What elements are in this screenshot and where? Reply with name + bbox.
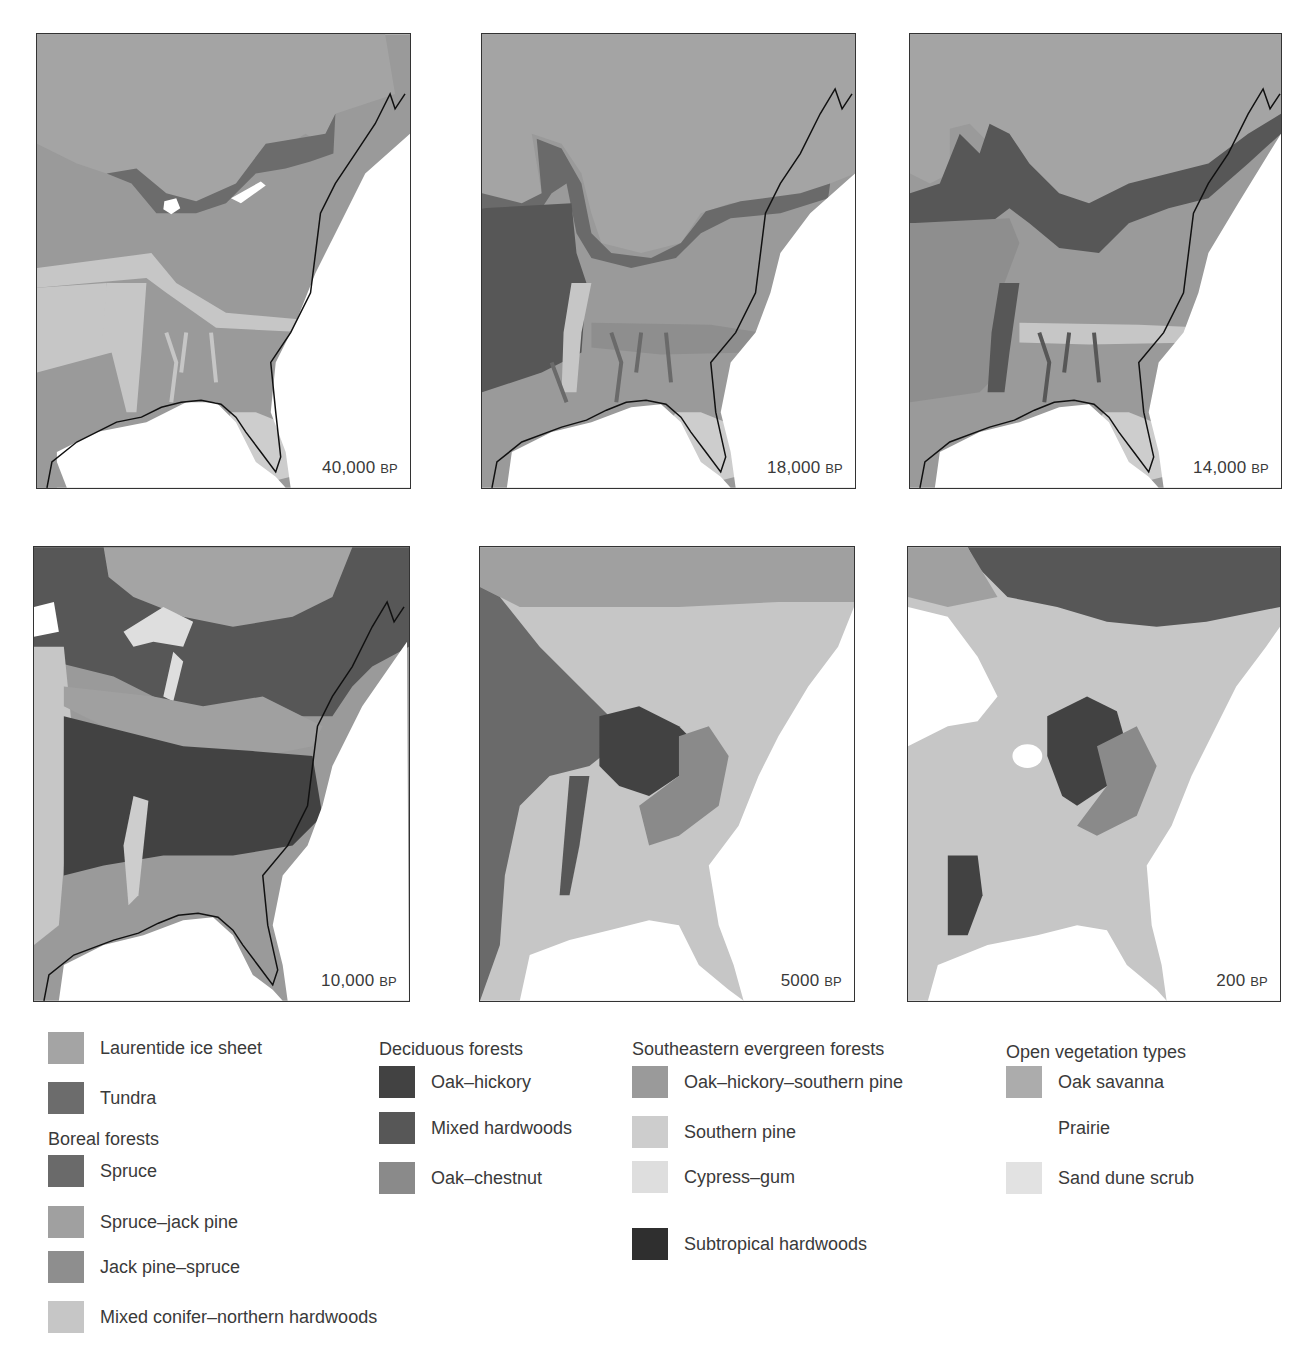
- map-panel-18000bp: 18,000 BP: [481, 33, 856, 489]
- legend-item-jack-pine-spruce: Jack pine–spruce: [48, 1251, 240, 1283]
- swatch-cypress-gum: [632, 1161, 668, 1193]
- time-label: 18,000 BP: [767, 458, 843, 478]
- time-label: 14,000 BP: [1193, 458, 1269, 478]
- swatch-subtropical: [632, 1228, 668, 1260]
- map-panel-40000bp: 40,000 BP: [36, 33, 411, 489]
- swatch-oak-hickory-southern-pine: [632, 1066, 668, 1098]
- legend-item-southern-pine: Southern pine: [632, 1116, 796, 1148]
- legend-item-tundra: Tundra: [48, 1082, 156, 1114]
- legend-item-subtropical: Subtropical hardwoods: [632, 1228, 867, 1260]
- swatch-tundra: [48, 1082, 84, 1114]
- legend-item-mixed-conifer: Mixed conifer–northern hardwoods: [48, 1301, 377, 1333]
- legend-item-ice: Laurentide ice sheet: [48, 1032, 262, 1064]
- swatch-oak-chestnut: [379, 1162, 415, 1194]
- swatch-mixed-conifer: [48, 1301, 84, 1333]
- swatch-mixed-hardwoods: [379, 1112, 415, 1144]
- legend-item-mixed-hardwoods: Mixed hardwoods: [379, 1112, 572, 1144]
- swatch-prairie: [1006, 1112, 1042, 1144]
- legend-heading-open-vegetation: Open vegetation types: [1006, 1042, 1186, 1063]
- vegetation-map-5000bp: [480, 547, 854, 1001]
- swatch-spruce: [48, 1155, 84, 1187]
- legend-item-oak-hickory: Oak–hickory: [379, 1066, 531, 1098]
- legend-item-oak-chestnut: Oak–chestnut: [379, 1162, 542, 1194]
- vegetation-map-200bp: [908, 547, 1280, 1001]
- time-label: 40,000 BP: [322, 458, 398, 478]
- map-panel-10000bp: 10,000 BP: [33, 546, 410, 1002]
- legend-item-sand-dune: Sand dune scrub: [1006, 1162, 1194, 1194]
- vegetation-map-14000bp: [910, 34, 1281, 488]
- time-label: 5000 BP: [781, 971, 842, 991]
- swatch-ice: [48, 1032, 84, 1064]
- legend-heading-deciduous: Deciduous forests: [379, 1039, 523, 1060]
- legend-item-spruce-jack-pine: Spruce–jack pine: [48, 1206, 238, 1238]
- swatch-oak-savanna: [1006, 1066, 1042, 1098]
- swatch-jack-pine-spruce: [48, 1251, 84, 1283]
- swatch-sand-dune: [1006, 1162, 1042, 1194]
- map-panel-200bp: 200 BP: [907, 546, 1281, 1002]
- time-label: 200 BP: [1216, 971, 1268, 991]
- swatch-spruce-jack-pine: [48, 1206, 84, 1238]
- legend-item-prairie: Prairie: [1006, 1112, 1110, 1144]
- swatch-southern-pine: [632, 1116, 668, 1148]
- legend-item-oak-hickory-southern-pine: Oak–hickory–southern pine: [632, 1066, 903, 1098]
- legend-item-spruce: Spruce: [48, 1155, 157, 1187]
- legend-item-oak-savanna: Oak savanna: [1006, 1066, 1164, 1098]
- vegetation-map-18000bp: [482, 34, 855, 488]
- legend-item-cypress-gum: Cypress–gum: [632, 1161, 795, 1193]
- vegetation-map-10000bp: [34, 547, 409, 1001]
- time-label: 10,000 BP: [321, 971, 397, 991]
- legend-heading-boreal: Boreal forests: [48, 1129, 159, 1150]
- map-panel-14000bp: 14,000 BP: [909, 33, 1282, 489]
- legend-heading-se-evergreen: Southeastern evergreen forests: [632, 1039, 884, 1060]
- swatch-oak-hickory: [379, 1066, 415, 1098]
- vegetation-map-40000bp: [37, 34, 410, 488]
- map-panel-5000bp: 5000 BP: [479, 546, 855, 1002]
